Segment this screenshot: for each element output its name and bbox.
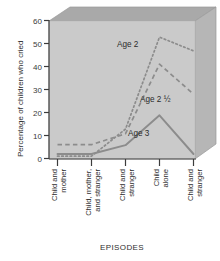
box-top-face xyxy=(49,7,216,21)
x-category-label-4: Child alone xyxy=(152,169,170,188)
x-category-label-3-line-2: stranger xyxy=(127,169,136,197)
series-annotation-age-2: Age 2 xyxy=(117,40,139,49)
y-axis-ticks xyxy=(44,21,49,159)
x-category-label-4-line-2: alone xyxy=(161,169,170,188)
chart-figure: 60 50 40 30 20 10 0 Percentage of childr… xyxy=(0,0,220,261)
y-tick-label-60: 60 xyxy=(33,17,42,26)
x-category-label-3-line-1: Child and xyxy=(118,169,127,201)
x-category-label-1-line-1: Child and xyxy=(50,169,59,201)
y-axis-title: Percentage of children who cried xyxy=(16,40,25,157)
y-tick-label-50: 50 xyxy=(33,40,42,49)
y-tick-label-0: 0 xyxy=(38,155,43,164)
x-category-label-2: Child, mother, and stranger xyxy=(84,169,102,216)
x-category-label-1: Child and mother xyxy=(50,169,68,202)
x-category-label-5: Child and stranger xyxy=(186,169,204,202)
x-axis-ticks xyxy=(58,159,194,166)
x-axis-title: EPISODES xyxy=(100,243,144,252)
x-category-label-4-line-1: Child xyxy=(152,169,161,186)
y-tick-label-30: 30 xyxy=(33,86,42,95)
x-category-label-5-line-2: stranger xyxy=(195,169,204,197)
x-category-label-5-line-1: Child and xyxy=(186,169,195,201)
x-category-label-2-line-1: Child, mother, xyxy=(84,169,93,216)
y-tick-label-10: 10 xyxy=(33,132,42,141)
x-category-label-2-line-2: and stranger xyxy=(93,169,102,212)
y-tick-label-20: 20 xyxy=(33,109,42,118)
series-annotation-age-2-half: Age 2 ½ xyxy=(140,95,171,104)
line-chart-svg: 60 50 40 30 20 10 0 Percentage of childr… xyxy=(0,0,220,261)
box-right-face xyxy=(195,7,216,159)
x-category-label-3: Child and stranger xyxy=(118,169,136,202)
series-annotation-age-3: Age 3 xyxy=(128,129,150,138)
x-category-label-1-line-2: mother xyxy=(59,169,68,193)
y-tick-label-40: 40 xyxy=(33,63,42,72)
